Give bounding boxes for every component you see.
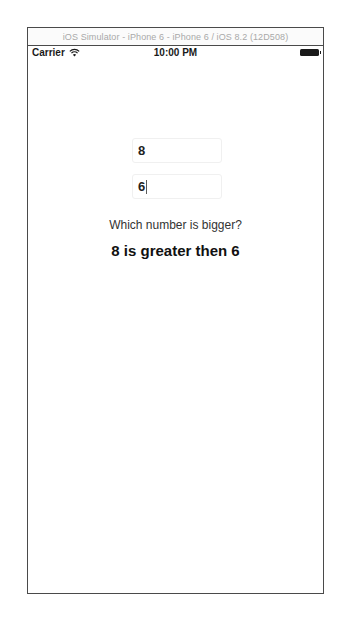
- simulator-window: iOS Simulator - iPhone 6 - iPhone 6 / iO…: [27, 27, 324, 594]
- status-time: 10:00 PM: [28, 47, 323, 58]
- window-title: iOS Simulator - iPhone 6 - iPhone 6 / iO…: [63, 32, 289, 42]
- first-number-value: 8: [138, 143, 145, 158]
- ios-status-bar: Carrier 10:00 PM: [28, 46, 323, 60]
- app-content: 8 6 Which number is bigger? 8 is greater…: [28, 60, 323, 580]
- second-number-value: 6: [138, 179, 145, 194]
- question-label: Which number is bigger?: [28, 218, 323, 232]
- second-number-field[interactable]: 6: [132, 174, 222, 199]
- battery-icon: [300, 49, 319, 56]
- result-label: 8 is greater then 6: [28, 242, 323, 259]
- first-number-field[interactable]: 8: [132, 138, 222, 163]
- window-title-bar: iOS Simulator - iPhone 6 - iPhone 6 / iO…: [28, 28, 323, 46]
- text-cursor: [146, 180, 147, 194]
